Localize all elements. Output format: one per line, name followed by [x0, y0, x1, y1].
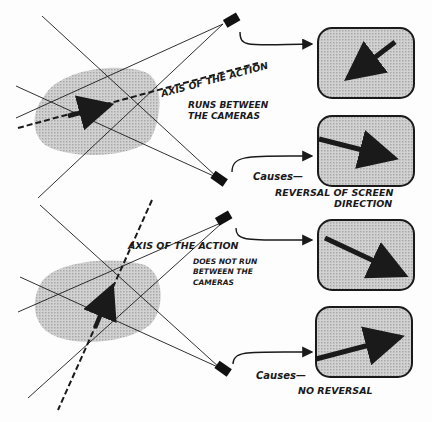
curved-arrow	[233, 352, 312, 364]
axis-of-action-diagram: AXIS OF THE ACTION RUNS BETWEEN THE CAME…	[0, 0, 432, 422]
curved-arrow	[232, 156, 312, 172]
curved-arrow	[240, 32, 312, 45]
screen-view-4	[316, 307, 412, 377]
causes-label: Causes—	[253, 171, 303, 182]
camera-icon	[223, 13, 240, 28]
axis-label-bottom: AXIS OF THE ACTION	[127, 240, 239, 251]
axis-label-top: AXIS OF THE ACTION	[159, 60, 270, 100]
camera-icon	[214, 361, 231, 377]
condition-text: BETWEEN THE	[193, 267, 254, 276]
condition-text: DOES NOT RUN	[193, 257, 258, 266]
camera-icon	[215, 211, 232, 226]
top-panel: AXIS OF THE ACTION RUNS BETWEEN THE CAME…	[16, 13, 414, 209]
curved-arrow	[236, 228, 312, 240]
bottom-panel: AXIS OF THE ACTION DOES NOT RUN BETWEEN …	[18, 200, 414, 410]
result-text: REVERSAL OF SCREEN	[275, 187, 393, 198]
condition-text: THE CAMERAS	[188, 111, 260, 121]
result-text: DIRECTION	[334, 198, 392, 209]
causes-label: Causes—	[256, 370, 306, 381]
condition-text: CAMERAS	[193, 278, 234, 287]
result-text: NO REVERSAL	[298, 385, 373, 396]
action-area-bottom	[35, 261, 161, 342]
condition-text: RUNS BETWEEN	[188, 100, 269, 110]
